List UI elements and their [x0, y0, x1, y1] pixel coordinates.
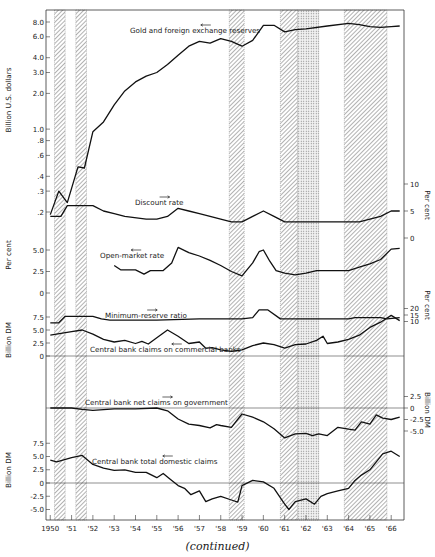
chart: 1950'51'52'53'54'55'56'57'58'59'60'61'62… — [0, 0, 435, 557]
y-tick-label: 8.0 — [33, 19, 44, 27]
x-tick-label: '61 — [279, 525, 290, 533]
y-tick-label: -2.5 — [30, 493, 44, 501]
y-tick-label: 0 — [40, 353, 44, 361]
x-tick-label: '54 — [130, 525, 141, 533]
y-axis-title: Per cent — [423, 190, 432, 220]
y-tick-label: 0 — [40, 480, 44, 488]
y-tick-label: .6 — [37, 152, 44, 160]
shaded-period — [229, 10, 244, 520]
x-tick-label: '55 — [151, 525, 162, 533]
y-tick-label: .4 — [37, 173, 44, 181]
y-tick-label: .8 — [37, 137, 44, 145]
y-axis-title: Per cent — [423, 290, 432, 320]
shaded-period — [297, 10, 318, 520]
shaded-period — [76, 10, 87, 520]
x-tick-label: '66 — [386, 525, 397, 533]
y-tick-label: 5.0 — [33, 247, 44, 255]
series-label: Minimum-reserve ratio — [105, 311, 187, 320]
y-tick-label: -5.0 — [410, 428, 424, 436]
series-label: Open-market rate — [100, 251, 165, 260]
y-tick-label: 2.0 — [33, 90, 44, 98]
y-tick-label: -2.5 — [410, 416, 424, 424]
y-axis-title: Per cent — [4, 240, 13, 270]
y-axis-title: Billion DM — [4, 322, 13, 358]
y-tick-label: 10 — [410, 181, 419, 189]
x-tick-label: 1950 — [41, 525, 59, 533]
x-tick-label: '51 — [66, 525, 77, 533]
x-tick-label: '58 — [215, 525, 226, 533]
x-tick-label: '64 — [343, 525, 354, 533]
y-tick-label: 2.5 — [33, 466, 44, 474]
x-tick-label: '53 — [109, 525, 120, 533]
y-tick-label: .3 — [37, 188, 44, 196]
y-tick-label: 6.0 — [33, 33, 44, 41]
x-tick-label: '56 — [173, 525, 184, 533]
shaded-period — [55, 10, 66, 520]
shaded-period — [280, 10, 297, 520]
y-tick-label: 7.5 — [33, 314, 44, 322]
y-tick-label: 0 — [410, 405, 414, 413]
x-tick-label: '65 — [364, 525, 375, 533]
y-tick-label: 5.0 — [33, 453, 44, 461]
x-tick-label: '52 — [87, 525, 98, 533]
y-tick-label: .2 — [37, 209, 44, 217]
y-tick-label: 0 — [410, 235, 414, 243]
series-label: Central bank total domestic claims — [92, 457, 218, 466]
y-tick-label: 5.0 — [33, 327, 44, 335]
x-tick-label: '57 — [194, 525, 205, 533]
y-tick-label: 3.0 — [33, 69, 44, 77]
y-tick-label: 2.5 — [33, 340, 44, 348]
y-axis-title: Billion U.S. dollars — [4, 67, 13, 132]
y-tick-label: 5 — [410, 208, 414, 216]
caption: (continued) — [0, 540, 435, 553]
y-tick-label: 1.0 — [33, 126, 44, 134]
series-label: Gold and foreign exchange reserves — [130, 26, 260, 35]
y-tick-label: 2.5 — [33, 268, 44, 276]
y-tick-label: -5.0 — [30, 506, 44, 514]
y-tick-label: 10 — [410, 318, 419, 326]
x-tick-label: '60 — [258, 525, 269, 533]
x-tick-label: '59 — [237, 525, 248, 533]
y-axis-title: Billion DM — [4, 452, 13, 488]
x-tick-label: '63 — [322, 525, 333, 533]
y-tick-label: 4.0 — [33, 54, 44, 62]
series-label: Discount rate — [135, 198, 184, 207]
x-tick-label: '62 — [301, 525, 312, 533]
y-tick-label: 2.5 — [410, 393, 421, 401]
y-axis-title: Billion DM — [423, 392, 432, 428]
series-label: Central bank net claims on government — [85, 398, 228, 407]
series-label: Central bank claims on commercial banks — [90, 345, 241, 354]
y-tick-label: 7.5 — [33, 440, 44, 448]
y-tick-label: 0 — [40, 290, 44, 298]
